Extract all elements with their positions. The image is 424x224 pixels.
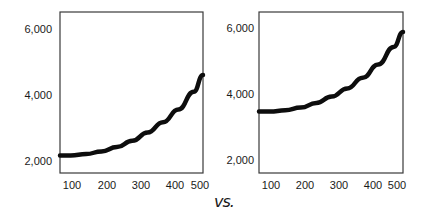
left-x-tick-300: 300 (126, 179, 156, 191)
left-x-tick-100: 100 (57, 179, 87, 191)
left-y-tick-6000: 6,000 (2, 23, 52, 35)
right-chart: 6,000 4,000 2,000 100 200 300 400 500 (200, 0, 412, 224)
right-x-tick-100: 100 (256, 179, 286, 191)
left-plot-frame (60, 12, 203, 173)
right-x-tick-200: 200 (290, 179, 320, 191)
left-x-tick-200: 200 (92, 179, 122, 191)
left-y-tick-2000: 2,000 (2, 155, 52, 167)
right-y-tick-4000: 4,000 (204, 88, 254, 100)
right-curve-line (259, 32, 403, 112)
right-x-tick-500: 500 (382, 179, 412, 191)
versus-label: vs. (214, 192, 234, 211)
left-curve-line (60, 75, 203, 155)
left-y-tick-4000: 4,000 (2, 89, 52, 101)
right-y-tick-2000: 2,000 (204, 154, 254, 166)
right-plot-frame (259, 12, 403, 173)
right-y-tick-6000: 6,000 (204, 22, 254, 34)
right-x-tick-300: 300 (324, 179, 354, 191)
left-chart: 6,000 4,000 2,000 100 200 300 400 500 (0, 0, 212, 224)
